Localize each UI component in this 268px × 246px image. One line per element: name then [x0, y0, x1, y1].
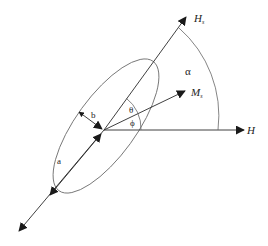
a-label: a [57, 156, 61, 166]
b-label: b [91, 110, 96, 120]
particle-ellipse [35, 44, 178, 209]
magnetization-diagram: Hs Ms H α θ ϕ a b [0, 0, 268, 246]
hs-axis-arrow [104, 17, 186, 130]
ms-arrow [104, 91, 185, 130]
ms-label: Ms [190, 86, 203, 99]
alpha-label: α [185, 65, 191, 77]
phi-label: ϕ [130, 118, 135, 128]
theta-label: θ [129, 105, 133, 115]
alpha-arc [179, 28, 219, 130]
h-label: H [246, 124, 256, 136]
hs-label: Hs [193, 12, 205, 25]
